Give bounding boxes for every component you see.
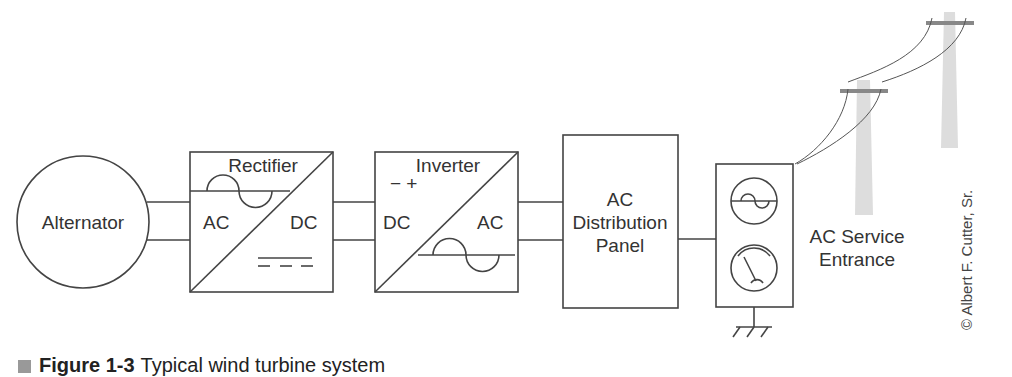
rectifier-output-label: DC (290, 212, 317, 233)
rectifier-input-label: AC (203, 212, 229, 233)
figure-caption: Figure 1-3Typical wind turbine system (18, 354, 385, 377)
rectifier-title: Rectifier (228, 155, 298, 176)
figure-number: Figure 1-3 (39, 354, 135, 376)
caption-text: Typical wind turbine system (141, 354, 386, 376)
image-credit: © Albert F. Cutter, Sr. (958, 190, 975, 330)
inverter-polarity: − + (390, 173, 417, 194)
distribution-label-3: Panel (596, 235, 645, 256)
distribution-label-1: AC (607, 189, 633, 210)
service-label-2: Entrance (819, 249, 895, 270)
inverter-title: Inverter (416, 155, 481, 176)
service-label-1: AC Service (809, 226, 904, 247)
caption-marker-icon (18, 360, 31, 373)
distribution-label-2: Distribution (572, 212, 667, 233)
service-entrance-box (716, 164, 793, 307)
inverter-input-label: DC (383, 212, 410, 233)
utility-poles (795, 12, 974, 215)
inverter-output-label: AC (477, 212, 503, 233)
alternator-label: Alternator (42, 212, 125, 233)
